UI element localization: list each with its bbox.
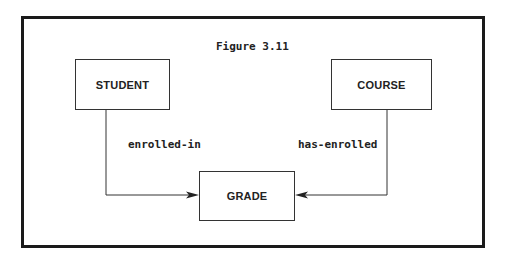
connector-student-grade bbox=[106, 110, 199, 199]
connector-course-grade bbox=[295, 110, 387, 199]
relationship-label-enrolled-in: enrolled-in bbox=[128, 138, 201, 151]
relationship-label-has-enrolled: has-enrolled bbox=[298, 138, 377, 151]
connector-lines bbox=[0, 0, 507, 264]
